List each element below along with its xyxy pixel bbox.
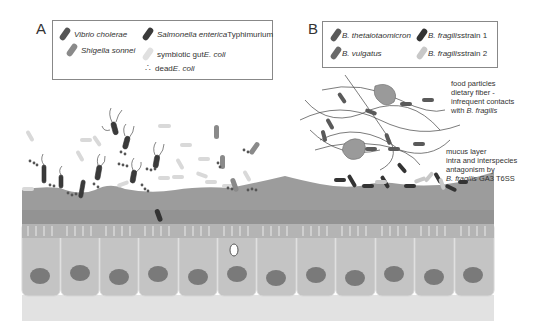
b-thetaiotaomicron-icon (330, 28, 343, 43)
legend-item-symbiotic-ecoli: symbiotic gut E. coli (145, 47, 225, 61)
basal-layer (22, 295, 494, 321)
panel-a-legend: Vibrio cholerae Salmonella enterica Typh… (52, 20, 273, 80)
panel-b-legend: B. thetaiotaomicron B. fragilis strain 1… (322, 21, 498, 68)
food-particles-annotation: food particles dietary fiber - infrequen… (451, 79, 514, 115)
b-vulgatus-icon (330, 46, 343, 61)
panel-a-label: A (36, 20, 46, 37)
salmonella-icon (142, 27, 155, 42)
vibrio-icon (59, 27, 72, 42)
legend-item-b-fragilis-1: B. fragilis strain 1 (419, 28, 487, 42)
b-fragilis-2-icon (416, 46, 429, 61)
panel-a-bacteria (22, 108, 260, 198)
legend-item-vibrio-cholerae: Vibrio cholerae (62, 27, 127, 41)
dead-ecoli-icon: ∴ (145, 63, 150, 73)
legend-item-shigella: Shigella sonnei (69, 43, 135, 57)
legend-item-b-thetaiotaomicron: B. thetaiotaomicron (333, 28, 411, 42)
legend-item-dead-ecoli: ∴ dead E. coli (145, 63, 195, 73)
panel-b-label: B (308, 20, 318, 37)
legend-item-b-fragilis-2: B. fragilis strain 2 (419, 46, 487, 60)
legend-item-salmonella: Salmonella enterica Typhimurium (145, 27, 273, 41)
microvilli (22, 224, 494, 238)
shigella-icon (66, 43, 79, 58)
b-fragilis-1-icon (416, 28, 429, 43)
symbiotic-ecoli-icon (142, 47, 155, 62)
legend-item-b-vulgatus: B. vulgatus (333, 46, 382, 60)
mucus-layer-annotation: mucus layer intra and interspecies antag… (446, 147, 517, 183)
vacuole (230, 244, 238, 256)
